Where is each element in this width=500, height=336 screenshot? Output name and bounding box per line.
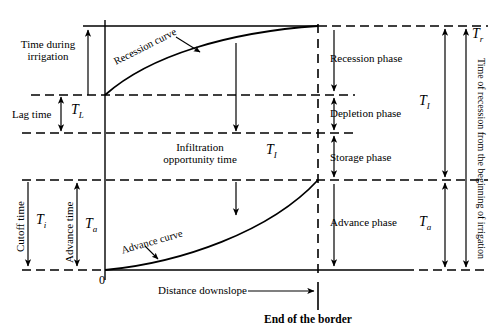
- recession-time-description-label: Time of recession from the beginning of …: [475, 58, 487, 259]
- advance-time-symbol: Ta: [85, 218, 97, 235]
- time-during-irrigation-label: Time during irrigation: [12, 38, 84, 62]
- total-infiltration-symbol-sub: I: [427, 101, 430, 111]
- lag-time-label: Lag time: [12, 108, 51, 120]
- total-advance-time-symbol: Ta: [419, 216, 431, 233]
- distance-downslope-label: Distance downslope: [158, 284, 247, 296]
- cutoff-time-symbol-sub: i: [44, 220, 47, 230]
- infiltration-opportunity-time-symbol: TI: [266, 144, 277, 161]
- total-infiltration-symbol-letter: T: [419, 93, 427, 108]
- advance-time-symbol-letter: T: [85, 216, 93, 231]
- infiltration-opportunity-time-label: Infiltration opportunity time: [150, 141, 250, 165]
- recession-phase-label: Recession phase: [330, 52, 402, 64]
- total-advance-symbol-sub: a: [427, 222, 432, 232]
- advance-time-symbol-sub: a: [93, 224, 98, 234]
- lag-time-symbol-sub: L: [79, 110, 84, 120]
- recession-curve-path: [105, 26, 318, 95]
- recession-time-symbol-sub: r: [480, 34, 484, 44]
- advance-curve-path: [105, 180, 318, 270]
- recession-time-symbol-letter: T: [472, 26, 480, 41]
- total-advance-symbol-letter: T: [419, 214, 427, 229]
- cutoff-time-symbol: Ti: [36, 214, 46, 231]
- storage-phase-label: Storage phase: [330, 151, 391, 163]
- lag-time-symbol: TL: [71, 104, 84, 121]
- total-infiltration-time-symbol: TI: [419, 95, 430, 112]
- origin-label: 0: [99, 274, 105, 286]
- end-of-border-label: End of the border: [264, 313, 352, 325]
- irrigation-phase-diagram: Time during irrigation Lag time TL Cutof…: [0, 0, 500, 336]
- infiltration-opportunity-symbol-sub: I: [274, 150, 277, 160]
- recession-time-symbol: Tr: [472, 28, 483, 45]
- advance-time-label: Advance time: [63, 202, 75, 263]
- lag-time-symbol-letter: T: [71, 102, 79, 117]
- advance-phase-label: Advance phase: [330, 216, 397, 228]
- cutoff-time-label: Cutoff time: [14, 201, 26, 252]
- infiltration-opportunity-symbol-letter: T: [266, 142, 274, 157]
- depletion-phase-label: Depletion phase: [330, 107, 401, 119]
- cutoff-time-symbol-letter: T: [36, 212, 44, 227]
